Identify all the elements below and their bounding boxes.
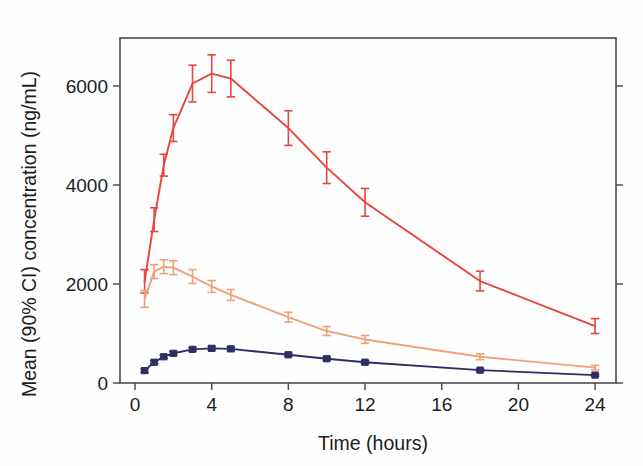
y-tick-label-2000: 2000 (66, 274, 108, 295)
data-point-marker (285, 352, 291, 358)
x-tick-label-4: 4 (206, 394, 217, 415)
pk-concentration-time-figure: 048121620240200040006000 Time (hours) Me… (0, 0, 643, 466)
chart-canvas: 048121620240200040006000 Time (hours) Me… (0, 0, 643, 466)
x-tick-label-8: 8 (283, 394, 294, 415)
x-tick-label-0: 0 (130, 394, 141, 415)
y-tick-label-0: 0 (97, 373, 108, 394)
x-tick-label-12: 12 (354, 394, 375, 415)
plot-frame (120, 38, 616, 383)
x-axis-title: Time (hours) (318, 432, 428, 454)
data-point-marker (170, 350, 176, 356)
data-series-layer (140, 55, 599, 378)
y-tick-label-6000: 6000 (66, 76, 108, 97)
data-point-marker (592, 372, 598, 378)
data-point-marker (209, 345, 215, 351)
data-point-marker (151, 359, 157, 365)
data-point-marker (161, 354, 167, 360)
data-point-marker (362, 359, 368, 365)
x-tick-label-24: 24 (585, 394, 607, 415)
series-mid-dose (140, 260, 599, 370)
y-tick-label-4000: 4000 (66, 175, 108, 196)
data-point-marker (189, 346, 195, 352)
data-point-marker (141, 368, 147, 374)
y-axis-ticks (113, 86, 623, 383)
data-point-marker (477, 367, 483, 373)
x-tick-label-16: 16 (431, 394, 452, 415)
data-point-marker (324, 356, 330, 362)
y-axis-title: Mean (90% CI) concentration (ng/mL) (18, 71, 40, 397)
data-point-marker (228, 346, 234, 352)
x-axis-ticks (135, 383, 595, 390)
axis-tick-labels: 048121620240200040006000 (66, 76, 606, 415)
x-tick-label-20: 20 (508, 394, 529, 415)
